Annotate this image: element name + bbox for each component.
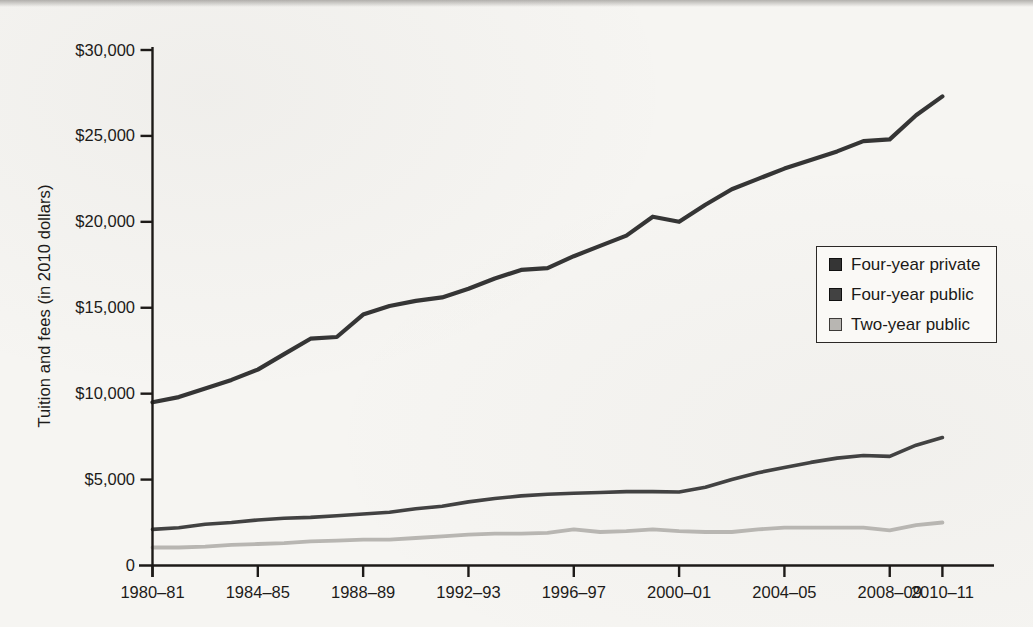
legend-item-four-year-public: Four-year public bbox=[829, 280, 996, 310]
legend-swatch-icon bbox=[829, 258, 842, 271]
series-line-four-year-public bbox=[153, 438, 943, 530]
scanned-page: $30,000$25,000$20,000$15,000$10,000$5,00… bbox=[0, 0, 1033, 627]
legend-swatch-icon bbox=[829, 288, 842, 301]
y-tick-label: $20,000 bbox=[75, 212, 135, 230]
y-tick-label: $30,000 bbox=[75, 41, 135, 59]
tuition-chart: $30,000$25,000$20,000$15,000$10,000$5,00… bbox=[0, 0, 1033, 627]
x-tick-label: 1988–89 bbox=[331, 583, 395, 601]
y-tick-label: $25,000 bbox=[75, 126, 135, 144]
x-tick-label: 2010–11 bbox=[911, 583, 974, 601]
y-tick-label: $10,000 bbox=[75, 384, 135, 402]
x-tick-label: 1980–81 bbox=[120, 583, 184, 601]
x-tick-label: 1996–97 bbox=[542, 583, 606, 601]
legend-item-four-year-private: Four-year private bbox=[829, 250, 996, 280]
x-tick-label: 1984–85 bbox=[226, 583, 290, 601]
chart-legend: Four-year private Four-year public Two-y… bbox=[816, 246, 997, 343]
y-axis-title: Tuition and fees (in 2010 dollars) bbox=[35, 184, 54, 427]
y-tick-label: 0 bbox=[126, 556, 135, 574]
y-tick-label: $15,000 bbox=[75, 298, 135, 316]
y-tick-label: $5,000 bbox=[85, 470, 135, 488]
legend-label: Two-year public bbox=[851, 315, 970, 335]
x-tick-label: 1992–93 bbox=[436, 583, 500, 601]
series-line-two-year-public bbox=[153, 523, 943, 548]
legend-item-two-year-public: Two-year public bbox=[829, 310, 996, 340]
x-tick-label: 2000–01 bbox=[647, 583, 711, 601]
legend-label: Four-year private bbox=[851, 255, 980, 275]
x-tick-label: 2004–05 bbox=[752, 583, 816, 601]
legend-label: Four-year public bbox=[851, 285, 974, 305]
legend-swatch-icon bbox=[829, 318, 842, 331]
